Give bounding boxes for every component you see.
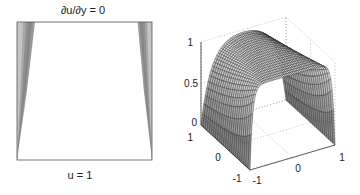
surface-panel: 1 0.5 0 1 0 -1 -1 0 1 <box>184 17 345 186</box>
z-tick-0: 0 <box>191 117 197 128</box>
top-boundary-label: ∂u/∂y = 0 <box>61 4 105 16</box>
x-tick-neg1: -1 <box>253 175 262 186</box>
x-axis <box>250 145 335 170</box>
domain-box <box>17 22 152 160</box>
figure: ∂u/∂y = 0 u = 1 1 0.5 0 1 0 -1 -1 0 1 <box>0 0 360 195</box>
y-tick-1: 1 <box>187 132 193 143</box>
y-tick-neg1: -1 <box>233 173 242 184</box>
surface-mesh <box>201 31 335 171</box>
z-tick-0.5: 0.5 <box>184 78 198 89</box>
z-tick-1: 1 <box>187 37 193 48</box>
bottom-boundary-label: u = 1 <box>68 169 93 181</box>
x-tick-1: 1 <box>339 152 345 163</box>
domain-panel: ∂u/∂y = 0 u = 1 <box>17 4 152 181</box>
y-tick-0: 0 <box>215 152 221 163</box>
boundary-layers <box>17 22 152 160</box>
x-tick-0: 0 <box>295 163 301 174</box>
